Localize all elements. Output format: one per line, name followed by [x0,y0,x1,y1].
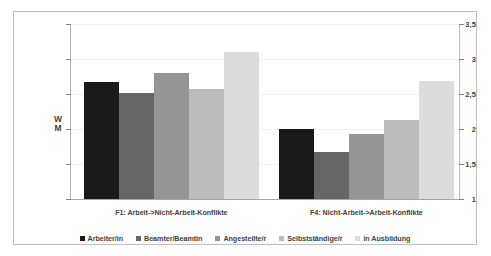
legend-label: Beamter/Beamtin [144,234,202,243]
bar [224,52,259,199]
x-category-label: F4: Nicht-Arbeit->Arbeit-Konflikte [310,208,423,217]
bar [189,89,224,199]
legend-item[interactable]: Arbeiter/in [80,234,123,243]
bar [349,134,384,199]
legend-item[interactable]: in Ausbildung [355,234,410,243]
y-axis-title: W M [50,115,66,133]
x-category-label: F1: Arbeit->Nicht-Arbeit-Konflikte [115,208,227,217]
legend-item[interactable]: Beamter/Beamtin [136,234,202,243]
bar [419,81,454,199]
chart-legend: Arbeiter/inBeamter/BeamtinAngestellte/rS… [14,234,476,243]
legend-item[interactable]: Angestellte/r [215,234,266,243]
legend-swatch-icon [136,236,141,241]
bar [84,82,119,199]
legend-label: Selbstständige/r [287,234,342,243]
bar [384,120,419,199]
y-tick-mark [66,199,71,200]
legend-label: in Ausbildung [363,234,410,243]
x-axis-line [70,199,460,200]
legend-item[interactable]: Selbstständige/r [279,234,342,243]
legend-swatch-icon [215,236,220,241]
bar [279,129,314,199]
legend-swatch-icon [80,236,85,241]
bar [314,152,349,199]
legend-label: Arbeiter/in [88,234,123,243]
legend-swatch-icon [279,236,284,241]
plot-area [70,24,460,199]
bar [119,93,154,199]
chart-figure: W M 11,522,533,5 F1: Arbeit->Nicht-Arbei… [13,11,477,245]
legend-label: Angestellte/r [223,234,266,243]
bar [154,73,189,199]
legend-swatch-icon [355,236,360,241]
